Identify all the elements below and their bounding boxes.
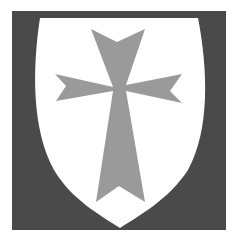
coat-of-arms — [0, 0, 235, 237]
